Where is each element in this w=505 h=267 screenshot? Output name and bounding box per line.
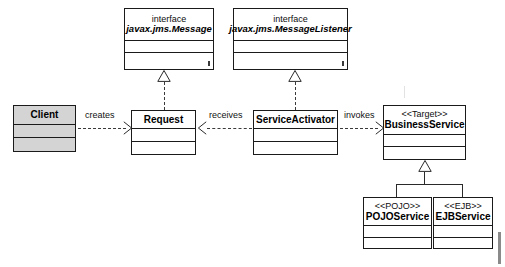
- relationship-label-receives: receives: [208, 110, 244, 120]
- generalization-branch-ejb-service: [462, 184, 463, 197]
- class-name-messagelistener: javax.jms.MessageListener: [229, 24, 352, 35]
- dependency-arrowhead-invokes: [375, 121, 385, 135]
- operations-compartment-ejb-service: [434, 238, 492, 248]
- attributes-compartment-request: [132, 129, 195, 142]
- class-header-request: Request: [132, 111, 195, 129]
- class-box-service-activator[interactable]: ServiceActivator: [253, 110, 338, 155]
- operations-compartment-service-activator: [254, 142, 337, 154]
- class-header-ejb-service: <<EJB>> EJBService: [434, 198, 492, 226]
- class-header-messagelistener-interface: interface javax.jms.MessageListener: [234, 9, 347, 41]
- class-name-client: Client: [31, 109, 59, 120]
- generalization-branch-pojo-service: [396, 184, 397, 197]
- operations-compartment-client: [14, 138, 75, 151]
- class-name-business-service: BusinessService: [384, 119, 464, 130]
- realization-line-activator-messagelistener: [295, 82, 296, 110]
- stereotype-business-service: <<Target>>: [401, 109, 447, 119]
- realization-line-request-message: [164, 82, 165, 110]
- class-name-request: Request: [144, 114, 183, 125]
- resize-handle-marker-message: [208, 61, 210, 66]
- class-header-business-service: <<Target>> BusinessService: [384, 106, 465, 135]
- dependency-line-invokes: [340, 128, 378, 129]
- class-header-client: Client: [14, 106, 75, 125]
- class-box-messagelistener-interface[interactable]: interface javax.jms.MessageListener: [233, 8, 348, 70]
- dependency-line-creates: [78, 128, 126, 129]
- operations-compartment-message: [125, 53, 213, 69]
- stereotype-ejb-service: <<EJB>>: [444, 201, 482, 211]
- class-box-client[interactable]: Client: [13, 105, 76, 152]
- operations-compartment-request: [132, 142, 195, 154]
- class-box-message-interface[interactable]: interface javax.jms.Message: [124, 8, 214, 70]
- relationship-label-invokes: invokes: [343, 110, 376, 120]
- uml-class-diagram: interface javax.jms.Message interface ja…: [0, 0, 505, 267]
- scan-artifact-top-edge: [404, 86, 405, 98]
- class-name-pojo-service: POJOService: [366, 211, 429, 222]
- dependency-line-receives: [207, 128, 252, 129]
- class-name-service-activator: ServiceActivator: [256, 114, 335, 125]
- stereotype-pojo-service: <<POJO>>: [375, 201, 421, 211]
- dependency-arrowhead-creates: [123, 121, 133, 135]
- attributes-compartment-messagelistener: [234, 41, 347, 53]
- class-header-message-interface: interface javax.jms.Message: [125, 9, 213, 41]
- class-header-service-activator: ServiceActivator: [254, 111, 337, 129]
- attributes-compartment-client: [14, 125, 75, 138]
- class-box-business-service[interactable]: <<Target>> BusinessService: [383, 105, 466, 160]
- relationship-label-creates: creates: [84, 110, 116, 120]
- scan-artifact-right-edge: [498, 232, 501, 264]
- realization-triangle-activator-messagelistener: [288, 70, 302, 82]
- resize-handle-marker-messagelistener: [342, 61, 344, 66]
- generalization-stem-business-service: [424, 172, 425, 184]
- class-name-ejb-service: EJBService: [435, 211, 490, 222]
- realization-triangle-request-message: [157, 70, 171, 82]
- generalization-tree-bar: [396, 184, 463, 185]
- operations-compartment-pojo-service: [364, 238, 431, 248]
- attributes-compartment-message: [125, 41, 213, 53]
- attributes-compartment-service-activator: [254, 129, 337, 142]
- class-box-ejb-service[interactable]: <<EJB>> EJBService: [433, 197, 493, 249]
- dependency-arrowhead-receives: [197, 121, 207, 135]
- class-header-pojo-service: <<POJO>> POJOService: [364, 198, 431, 226]
- attributes-compartment-ejb-service: [434, 226, 492, 238]
- operations-compartment-messagelistener: [234, 53, 347, 69]
- generalization-triangle-business-service: [418, 160, 432, 172]
- attributes-compartment-pojo-service: [364, 226, 431, 238]
- class-name-message: javax.jms.Message: [126, 24, 212, 35]
- attributes-compartment-business-service: [384, 135, 465, 147]
- class-box-pojo-service[interactable]: <<POJO>> POJOService: [363, 197, 432, 249]
- operations-compartment-business-service: [384, 147, 465, 159]
- class-box-request[interactable]: Request: [131, 110, 196, 155]
